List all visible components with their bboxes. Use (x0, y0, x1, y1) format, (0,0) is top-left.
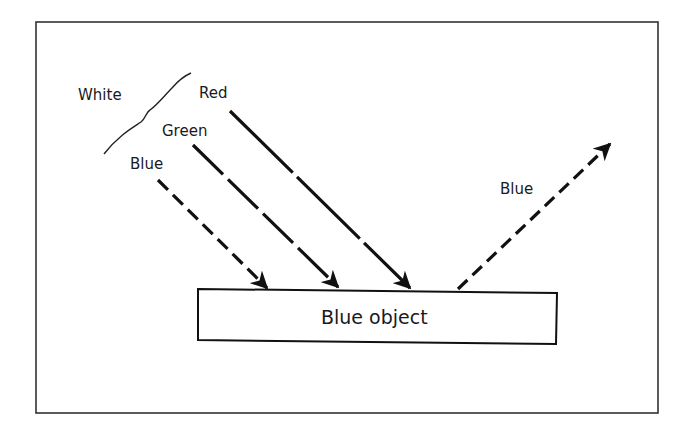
red-ray-label: Red (199, 84, 228, 102)
diagram-frame (36, 22, 658, 413)
blue-reflected-ray-label: Blue (500, 180, 533, 198)
green-ray-label: Green (162, 122, 207, 140)
green-ray-arrow-icon (193, 145, 338, 287)
diagram-svg (0, 0, 684, 432)
blue-reflected-ray-arrow-icon (458, 144, 610, 289)
white-light-label: White (78, 86, 122, 104)
blue-incoming-ray-arrow-icon (158, 180, 267, 288)
diagram-canvas: White Red Green Blue Blue Blue object (0, 0, 684, 432)
object-label: Blue object (321, 306, 428, 328)
blue-incoming-ray-label: Blue (130, 155, 163, 173)
red-ray-arrow-icon (230, 111, 410, 288)
